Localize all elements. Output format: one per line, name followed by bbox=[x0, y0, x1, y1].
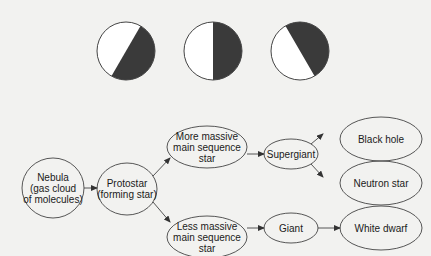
node-label-more-massive: More massive main sequence star bbox=[167, 126, 247, 168]
node-label-less-massive: Less massive main sequence star bbox=[167, 216, 247, 256]
node-label-supergiant: Supergiant bbox=[264, 139, 318, 169]
node-label-protostar: Protostar (forming star) bbox=[97, 163, 157, 215]
moon-phase-circles bbox=[97, 22, 329, 80]
node-label-black-hole: Black hole bbox=[340, 117, 422, 161]
diagram-stage: Nebula (gas cloud of molecules)Protostar… bbox=[0, 0, 431, 256]
half-shaded-circle bbox=[271, 22, 329, 80]
node-label-neutron-star: Neutron star bbox=[340, 161, 422, 205]
node-label-giant: Giant bbox=[264, 213, 318, 243]
node-label-white-dwarf: White dwarf bbox=[340, 206, 422, 250]
half-shaded-circle bbox=[97, 22, 155, 80]
node-label-nebula: Nebula (gas cloud of molecules) bbox=[22, 158, 84, 218]
half-shaded-circle bbox=[184, 22, 242, 80]
